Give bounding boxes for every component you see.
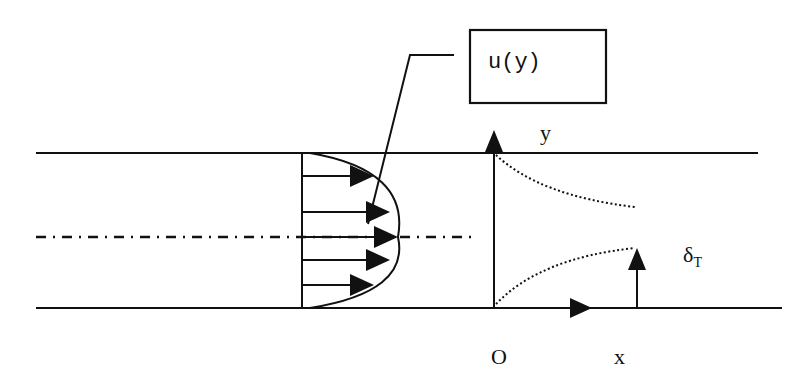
diagram-canvas: u(y) y O x δT (0, 0, 812, 389)
thermal-boundary-upper-curve (496, 155, 635, 207)
origin-label: O (491, 344, 507, 369)
velocity-arrow (302, 249, 390, 271)
y-axis (485, 130, 503, 308)
velocity-label: u(y) (488, 50, 541, 75)
thermal-thickness-arrow (628, 248, 646, 308)
x-axis-arrow (570, 298, 592, 318)
leader-line (368, 55, 454, 224)
velocity-arrow (302, 226, 398, 248)
delta-symbol: δ (683, 242, 693, 267)
x-axis-label: x (614, 344, 625, 369)
thermal-thickness-label: δT (683, 242, 702, 270)
delta-subscript: T (693, 255, 702, 270)
y-axis-label: y (540, 120, 551, 145)
velocity-arrow (302, 201, 390, 223)
thermal-boundary-lower-curve (496, 248, 635, 304)
velocity-profile (302, 153, 399, 308)
